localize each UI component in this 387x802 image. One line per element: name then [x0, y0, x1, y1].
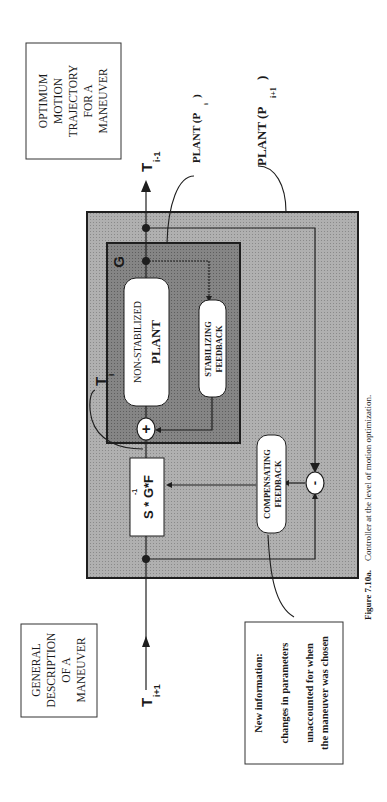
new-info-line-3: unaccounted for when [304, 643, 315, 743]
general-line-1: GENERAL [30, 643, 42, 697]
plant-line-2: PLANT [148, 320, 163, 364]
diagram-canvas: OPTIMUM MOTION TRAJECTORY FOR A MANEUVER… [0, 0, 387, 802]
compensating-line-2: FEEDBACK [273, 460, 283, 508]
t-next-label: T [138, 698, 155, 707]
plant-i1-label: PLANT (P [254, 107, 269, 166]
plant-i1-leader [258, 166, 286, 212]
stabilizing-line-1: STABILIZING [203, 321, 213, 377]
t-prev-sub: i-1 [152, 151, 162, 162]
plant-i-sub: i [202, 103, 210, 105]
compensating-line-1: COMPENSATING [262, 449, 272, 519]
new-info-line-4: the maneuver was chosen [319, 636, 330, 750]
minus-sign: - [307, 481, 322, 485]
new-info-line-1: New information: [253, 653, 264, 733]
input-arrow-icon [142, 636, 150, 647]
stabilizing-line-2: FEEDBACK [214, 325, 224, 373]
figure-caption-text: Controller at the level of motion optimi… [363, 395, 373, 561]
plant-i-close: ) [190, 94, 203, 98]
plant-i1-close: ) [254, 76, 269, 80]
plus-sign: + [137, 424, 154, 433]
t-curr-sub: i [106, 373, 116, 376]
optimum-line-1: OPTIMUM [37, 74, 49, 128]
plant-i-label: PLANT (P [190, 113, 203, 163]
general-line-3: OF A [60, 657, 72, 683]
t-prev-label: T [138, 163, 155, 172]
g-block-label: G [110, 256, 127, 268]
optimum-line-4: FOR A [82, 84, 94, 118]
new-info-line-2: changes in parameters [279, 643, 290, 744]
general-line-2: DESCRIPTION [45, 632, 57, 707]
sgf-label: S * G*F [141, 475, 156, 519]
output-arrow-icon [141, 180, 151, 192]
general-line-4: MANEUVER [75, 637, 87, 702]
plant-i1-sub: i+1 [269, 87, 278, 98]
t-next-sub: i+1 [152, 684, 162, 697]
plant-line-1: NON-STABILIZED [132, 301, 143, 383]
optimum-line-2: MOTION [52, 77, 64, 124]
optimum-line-5: MANEUVER [97, 68, 109, 133]
figure-caption-label: Figure 7.10a. [363, 570, 373, 620]
optimum-line-3: TRAJECTORY [67, 64, 79, 137]
sgf-superscript: -1 [131, 489, 138, 495]
t-curr-label: T [92, 377, 109, 386]
